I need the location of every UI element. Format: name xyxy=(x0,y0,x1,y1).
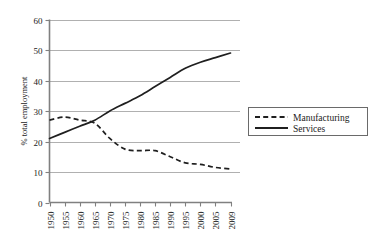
y-axis-title: % total employment xyxy=(19,76,29,146)
x-tick-label: 2009 xyxy=(227,211,237,230)
x-tick-label: 2000 xyxy=(196,211,206,230)
legend-label-manufacturing: Manufacturing xyxy=(293,113,350,123)
x-tick-label: 1990 xyxy=(166,211,176,230)
x-tick-label: 1975 xyxy=(121,211,131,230)
y-tick-labels: 0102030405060 xyxy=(34,16,44,209)
x-tick-label: 1995 xyxy=(181,211,191,230)
y-tick-label: 10 xyxy=(34,168,44,178)
x-tick-label: 2005 xyxy=(211,211,221,230)
gridlines-group xyxy=(50,21,241,173)
y-tick-label: 30 xyxy=(34,107,44,117)
y-tick-label: 60 xyxy=(34,16,44,26)
y-tick-label: 20 xyxy=(34,138,44,148)
y-tick-label: 50 xyxy=(34,46,44,56)
x-tick-labels: 1950195519601965197019751980198519901995… xyxy=(46,211,237,230)
series-line-services xyxy=(50,53,231,138)
employment-line-chart: 0102030405060 19501955196019651970197519… xyxy=(0,0,373,244)
series-line-manufacturing xyxy=(50,117,231,169)
x-tick-label: 1955 xyxy=(61,211,71,230)
x-tick-label: 1960 xyxy=(76,211,86,230)
y-tick-label: 40 xyxy=(34,77,44,87)
x-tick-label: 1980 xyxy=(136,211,146,230)
x-tick-label: 1970 xyxy=(106,211,116,230)
chart-container: 0102030405060 19501955196019651970197519… xyxy=(0,0,373,244)
chart-legend: Manufacturing Services xyxy=(249,108,368,136)
y-tick-label: 0 xyxy=(38,199,43,209)
legend-label-services: Services xyxy=(293,124,325,134)
x-tick-label: 1950 xyxy=(46,211,56,230)
x-tick-label: 1965 xyxy=(91,211,101,230)
x-tick-label: 1985 xyxy=(151,211,161,230)
